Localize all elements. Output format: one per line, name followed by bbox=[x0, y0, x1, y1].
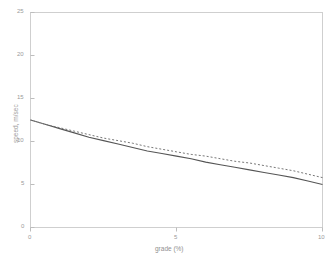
y-tick-label-20: 20 bbox=[17, 51, 24, 57]
plot-frame bbox=[31, 13, 323, 228]
y-tick-label-0: 0 bbox=[21, 223, 24, 229]
x-tick-label-10: 10 bbox=[318, 234, 325, 240]
x-axis-ticks bbox=[31, 228, 323, 232]
y-axis-label: speed, m/sec bbox=[12, 104, 19, 143]
chart-figure: 25 20 15 10 5 0 0 5 10 speed, m/sec grad… bbox=[0, 0, 333, 263]
x-tick-label-5: 5 bbox=[174, 234, 177, 240]
speed-vs-grade-plot bbox=[0, 0, 333, 263]
x-tick-label-0: 0 bbox=[28, 234, 31, 240]
x-axis-label: grade (%) bbox=[155, 245, 184, 252]
y-tick-label-25: 25 bbox=[17, 8, 24, 14]
y-tick-label-15: 15 bbox=[17, 94, 24, 100]
y-tick-label-5: 5 bbox=[21, 180, 24, 186]
